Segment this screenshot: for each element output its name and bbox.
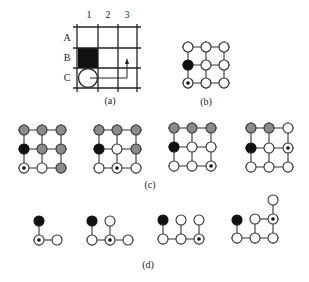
node-white <box>219 42 229 52</box>
tree-d4 <box>231 195 279 244</box>
node-white <box>201 42 211 52</box>
node-white <box>219 60 229 70</box>
caption-c: (c) <box>144 179 155 191</box>
panel-b: (b) <box>182 41 230 108</box>
caption-a: (a) <box>104 95 115 107</box>
grid-c3 <box>168 122 217 172</box>
arrow-head-icon <box>125 58 129 64</box>
node-white <box>201 78 211 88</box>
tree-d2 <box>86 216 134 246</box>
grid-b-nodes <box>183 42 229 88</box>
node-white <box>183 42 193 52</box>
col-label-1: 1 <box>87 9 92 20</box>
caption-b: (b) <box>200 96 212 108</box>
panel-d: (d) <box>33 195 279 271</box>
node-white <box>201 60 211 70</box>
row-label-c: C <box>64 72 71 83</box>
node-white <box>219 78 229 88</box>
grid-c1 <box>18 124 67 174</box>
grid-c4 <box>245 122 294 173</box>
diagram-canvas: 1 2 3 A B C (a) <box>0 0 309 282</box>
tree-d3 <box>157 215 205 245</box>
caption-d: (d) <box>142 259 154 271</box>
col-label-2: 2 <box>106 9 111 20</box>
row-label-a: A <box>63 32 71 43</box>
panel-c: (c) <box>18 122 294 191</box>
grid-c2 <box>93 124 142 174</box>
panel-a: 1 2 3 A B C (a) <box>63 9 141 107</box>
row-label-b: B <box>64 52 71 63</box>
node-black <box>183 60 193 70</box>
obstacle-cell <box>78 48 98 68</box>
col-label-3: 3 <box>125 9 130 20</box>
tree-d1 <box>33 216 62 246</box>
